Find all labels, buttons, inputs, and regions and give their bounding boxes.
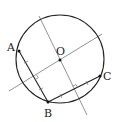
point-c (99, 75, 102, 78)
point-o (59, 59, 62, 62)
geometry-diagram: A B C O (0, 0, 120, 122)
right-angle-mark-ab (35, 75, 38, 80)
point-b (47, 101, 50, 104)
label-a: A (6, 41, 16, 54)
label-b: B (44, 107, 52, 120)
perpendicular-bisector-bc (39, 16, 87, 115)
point-a (18, 50, 21, 53)
label-c: C (103, 70, 111, 83)
label-o: O (56, 45, 65, 58)
